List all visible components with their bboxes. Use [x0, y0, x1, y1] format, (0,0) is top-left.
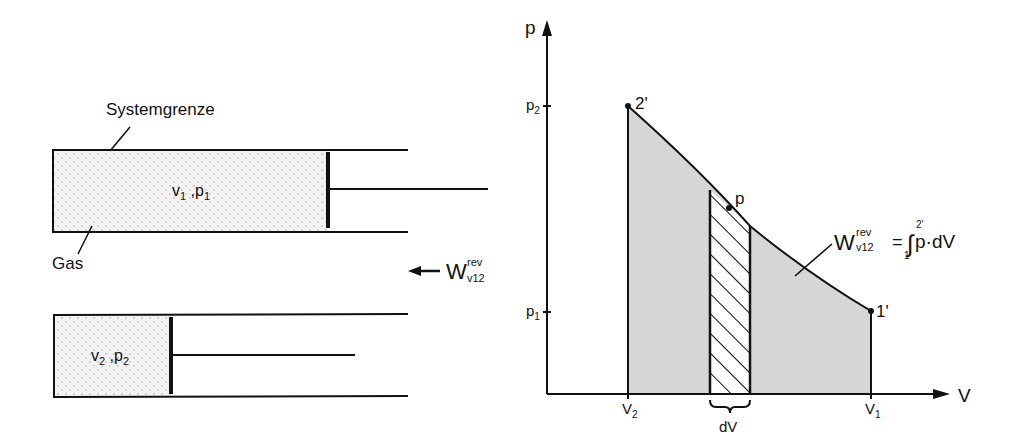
integral-upper: 2' — [916, 219, 924, 230]
arrow-left-icon — [408, 266, 421, 276]
y-tick-label-p1: p1 — [526, 302, 540, 322]
dv-label: dV — [719, 418, 737, 435]
system-boundary-label: Systemgrenze — [106, 100, 215, 119]
y-axis-label: p — [525, 17, 536, 38]
x-axis-arrow-icon — [933, 389, 950, 399]
dv-strip — [710, 180, 750, 394]
work-label-right-sup: rev — [856, 226, 872, 238]
work-label-left: W — [446, 259, 467, 284]
x-tick-label-v1: V1 — [865, 400, 881, 420]
y-axis-arrow-icon — [542, 20, 552, 36]
integral-equals: = — [892, 232, 903, 252]
point-1-label: 1' — [876, 302, 889, 321]
integral-integrand: p·dV — [915, 231, 955, 252]
dv-brace — [710, 400, 750, 413]
cylinder-state-1 — [52, 149, 488, 233]
cylinder-wall-bottom-2 — [53, 396, 408, 397]
work-label-left-sub: v12 — [467, 272, 485, 284]
point-2-label: 2' — [635, 94, 648, 113]
pv-diagram — [542, 20, 950, 413]
integral-lower: 1' — [904, 250, 912, 261]
system-boundary-leader — [110, 127, 130, 151]
point-p-label: p — [735, 189, 744, 208]
gas-label: Gas — [52, 254, 83, 273]
work-area-leader — [795, 244, 832, 276]
x-axis-label: V — [958, 385, 971, 406]
work-arrow — [408, 266, 440, 276]
x-tick-label-v2: V2 — [622, 400, 638, 420]
work-label-left-sup: rev — [467, 256, 483, 268]
point-p — [726, 205, 732, 211]
work-label-right: W — [834, 230, 855, 255]
point-1 — [868, 308, 874, 314]
cylinder-wall-top-2 — [53, 314, 408, 315]
work-label-right-sub: v12 — [856, 241, 874, 253]
y-tick-label-p2: p2 — [526, 96, 540, 116]
point-2 — [625, 103, 631, 109]
diagram-canvas: Systemgrenze Gas v1 ,p1 W rev v12 v2 ,p2 — [0, 0, 1010, 447]
